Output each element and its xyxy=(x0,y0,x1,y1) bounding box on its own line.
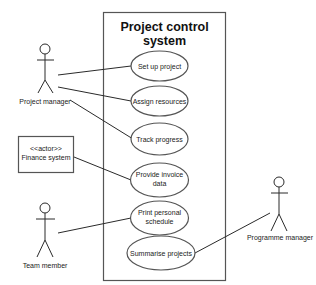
use-case-summarise-projects[interactable]: Summarise projects xyxy=(127,236,195,270)
use-case-track-progress[interactable]: Track progress xyxy=(131,123,188,155)
stick-figure-icon xyxy=(271,177,288,231)
actor-stereotype: <<actor>> xyxy=(30,145,62,152)
actor-label: Project manager xyxy=(19,98,71,106)
actor-finance-system[interactable]: <<actor>> Finance system xyxy=(19,137,74,173)
actor-label: Finance system xyxy=(21,154,70,162)
stick-figure-icon xyxy=(37,44,54,93)
use-case-label: Track progress xyxy=(136,136,183,144)
use-case-label-line1: Provide invoice xyxy=(136,171,184,178)
use-case-diagram: Project control system Set up project As… xyxy=(0,0,316,285)
use-case-print-personal-schedule[interactable]: Print personal schedule xyxy=(131,201,189,235)
use-case-label: Set up project xyxy=(138,63,181,71)
stick-figure-icon xyxy=(36,203,55,257)
use-case-provide-invoice-data[interactable]: Provide invoice data xyxy=(131,163,189,197)
use-case-label-line1: Print personal xyxy=(138,209,182,217)
actor-programme-manager[interactable]: Programme manager xyxy=(247,177,314,242)
use-case-set-up-project[interactable]: Set up project xyxy=(131,51,188,81)
system-title-line1: Project control xyxy=(120,20,208,34)
actor-project-manager[interactable]: Project manager xyxy=(19,44,71,106)
actor-label: Team member xyxy=(23,262,68,269)
use-case-label: Assign resources xyxy=(133,98,187,106)
use-case-assign-resources[interactable]: Assign resources xyxy=(131,86,188,116)
use-case-label-line2: schedule xyxy=(145,218,173,225)
use-case-label: Summarise projects xyxy=(130,250,192,258)
system-title-line2: system xyxy=(143,34,186,48)
use-case-label-line2: data xyxy=(153,180,167,187)
actor-team-member[interactable]: Team member xyxy=(23,203,68,269)
actor-label: Programme manager xyxy=(247,234,314,242)
